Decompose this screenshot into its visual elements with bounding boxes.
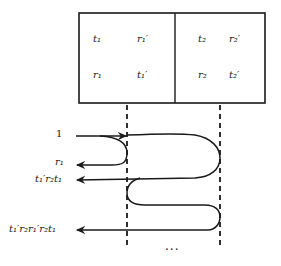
cell-t2-prime: t₂′ [229,70,239,80]
cell-r1-prime: r₁′ [137,34,148,44]
cell-t2: t₂ [198,34,206,44]
cell-r1: r₁ [93,70,102,80]
label-incident: 1 [56,129,62,139]
transmitted-path-2 [77,178,220,230]
label-reflect-2: t₁′r₂t₁ [35,174,62,184]
label-reflect-1: r₁ [55,157,64,167]
transmitted-path-1 [77,134,220,180]
label-reflect-3: t₁′r₂r₁′r₂t₁ [9,224,56,234]
continuation-ellipsis: ··· [165,244,179,256]
cell-t1: t₁ [93,34,101,44]
slab-box [79,13,265,103]
reflection-r1-path [77,136,127,165]
cell-r2: r₂ [198,70,207,80]
cell-r2-prime: r₂′ [229,34,240,44]
cell-t1-prime: t₁′ [137,70,147,80]
